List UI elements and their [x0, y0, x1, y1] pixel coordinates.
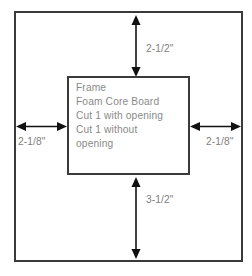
dimension-arrow-left	[16, 122, 67, 131]
frame-label-line-2: Foam Core Board	[76, 96, 159, 107]
dimension-top-arrowhead-down	[132, 67, 141, 77]
dimension-top-arrowhead-up	[132, 15, 141, 25]
dimension-label-bottom: 3-1/2"	[146, 194, 174, 205]
frame-diagram: Frame Foam Core Board Cut 1 with opening…	[0, 0, 252, 276]
dimension-right-arrowhead-left	[190, 122, 200, 131]
dimension-bottom-arrowhead-up	[132, 177, 141, 187]
dimension-arrow-top	[132, 15, 141, 77]
frame-label-line-4: Cut 1 without	[76, 124, 137, 135]
dimension-bottom-arrowhead-down	[132, 249, 141, 259]
dimension-arrow-right	[190, 122, 241, 131]
diagram-canvas: Frame Foam Core Board Cut 1 with opening…	[0, 0, 252, 276]
dimension-arrow-bottom	[132, 177, 141, 259]
frame-label-line-3: Cut 1 with opening	[76, 110, 163, 121]
dimension-right-arrowhead-right	[231, 122, 241, 131]
dimension-left-arrowhead-right	[57, 122, 67, 131]
frame-label-line-5: opening	[76, 138, 113, 149]
dimension-label-right: 2-1/8"	[206, 136, 234, 147]
frame-label-line-1: Frame	[76, 82, 106, 93]
dimension-label-left: 2-1/8"	[18, 136, 46, 147]
dimension-left-arrowhead-left	[16, 122, 26, 131]
dimension-label-top: 2-1/2"	[146, 43, 174, 54]
